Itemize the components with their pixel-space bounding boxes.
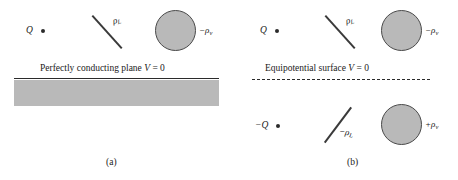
method-of-images-figure: Q ρL −ρv Perfectly conducting plane V = … (0, 0, 458, 180)
panel-a-plane-caption: Perfectly conducting plane V = 0 (40, 64, 165, 74)
panel-a-volume-charge-sphere (155, 10, 196, 51)
panel-b-upper-volume-charge-label: −ρv (425, 26, 438, 36)
panel-b-lower-line-charge-label: −ρL (338, 127, 353, 139)
panel-b-plane-caption: Equipotential surface V = 0 (265, 64, 369, 74)
panel-b-upper-line-charge-label: ρL (345, 15, 355, 26)
panel-b-equipotential-plane-line (252, 79, 430, 80)
panel-b-upper-volume-charge-sphere (381, 10, 422, 51)
panel-a: Q ρL −ρv Perfectly conducting plane V = … (0, 0, 229, 180)
panel-b-upper-point-charge-dot (275, 29, 279, 33)
panel-a-point-charge-label: Q (26, 26, 33, 36)
panel-a-line-charge-label: ρL (112, 15, 122, 26)
panel-b-lower-volume-charge-sphere (381, 104, 422, 145)
panel-b-lower-point-charge-dot (276, 124, 280, 128)
panel-a-volume-charge-label: −ρv (199, 26, 212, 36)
panel-b-lower-point-charge-label: −Q (255, 121, 268, 131)
panel-b-lower-volume-charge-label: +ρv (425, 120, 438, 130)
panel-a-subcaption: (a) (106, 158, 117, 168)
panel-b-subcaption: (b) (347, 158, 358, 168)
panel-b: Q ρL −ρv Equipotential surface V = 0 −Q … (229, 0, 458, 180)
panel-b-upper-point-charge-label: Q (260, 26, 267, 36)
panel-a-conductor-slab (14, 80, 219, 106)
panel-a-point-charge-dot (41, 29, 45, 33)
